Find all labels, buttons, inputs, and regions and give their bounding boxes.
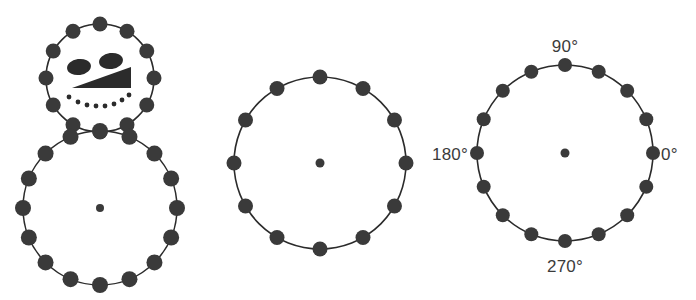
right-circle-node: [592, 65, 606, 79]
body-circle-node: [63, 129, 79, 145]
head-circle-node: [39, 71, 54, 86]
panel-snowman: [15, 17, 185, 294]
right-circle-node: [558, 234, 572, 248]
head-circle-node: [139, 98, 154, 113]
head-circle-node: [46, 44, 61, 59]
right-circle-center-dot: [561, 149, 570, 158]
panels-layer: [15, 17, 660, 294]
angle-label-270: 270°: [547, 257, 583, 276]
head-circle-node: [139, 44, 154, 59]
snowman-face: [66, 51, 131, 108]
panel-plain-circle: [227, 70, 414, 257]
middle-circle-node: [270, 230, 285, 245]
mouth-dot: [85, 103, 90, 108]
right-circle-node: [496, 84, 510, 98]
head-circle-node: [66, 24, 81, 39]
angle-label-0: 0°: [661, 145, 678, 164]
head-circle-outline: [46, 24, 154, 132]
body-circle-node: [15, 200, 31, 216]
mouth-dot: [120, 98, 125, 103]
right-circle-node: [470, 146, 484, 160]
head-circle-node: [93, 17, 108, 32]
right-circle-node: [496, 208, 510, 222]
mouth-dot: [127, 93, 132, 98]
right-circle-node: [620, 208, 634, 222]
mouth-dot: [76, 100, 81, 105]
right-circle-node: [639, 180, 653, 194]
left-eye: [66, 57, 92, 76]
shape-middle-circle: [227, 70, 414, 257]
body-circle-node: [21, 229, 37, 245]
mouth-dot: [103, 104, 108, 109]
right-circle-node: [477, 112, 491, 126]
mouth-dot: [94, 104, 99, 109]
body-circle-node: [63, 271, 79, 287]
right-circle-node: [524, 227, 538, 241]
right-circle-node: [592, 227, 606, 241]
right-circle-node: [524, 65, 538, 79]
middle-circle-node: [238, 113, 253, 128]
right-eye: [98, 51, 124, 70]
body-circle-node: [169, 200, 185, 216]
middle-circle-node: [399, 156, 414, 171]
body-circle-node: [92, 123, 108, 139]
head-circle-node: [120, 24, 135, 39]
body-circle-node: [163, 171, 179, 187]
body-circle-node: [121, 129, 137, 145]
mouth-dot: [112, 102, 117, 107]
figure-root: 90°0°180°270°: [0, 0, 696, 300]
body-circle-node: [146, 254, 162, 270]
middle-circle-node: [238, 199, 253, 214]
middle-circle-node: [313, 70, 328, 85]
head-circle-node: [147, 71, 162, 86]
circles-figure: 90°0°180°270°: [0, 0, 696, 300]
middle-circle-node: [313, 242, 328, 257]
right-circle-node: [646, 146, 660, 160]
shape-head-circle: [39, 17, 162, 140]
body-circle-node: [38, 254, 54, 270]
right-circle-node: [477, 180, 491, 194]
mouth-dot: [67, 95, 72, 100]
head-circle-node: [46, 98, 61, 113]
body-circle-node: [121, 271, 137, 287]
shape-right-circle: [470, 58, 660, 248]
middle-circle-node: [387, 199, 402, 214]
middle-circle-node: [227, 156, 242, 171]
body-circle-node: [92, 277, 108, 293]
right-circle-node: [558, 58, 572, 72]
right-circle-node: [639, 112, 653, 126]
shape-body-circle: [15, 123, 185, 293]
middle-circle-node: [356, 81, 371, 96]
body-circle-node: [146, 146, 162, 162]
body-circle-node: [21, 171, 37, 187]
angle-label-90: 90°: [552, 37, 578, 56]
angle-label-180: 180°: [432, 145, 468, 164]
right-circle-node: [620, 84, 634, 98]
middle-circle-node: [270, 81, 285, 96]
middle-circle-node: [387, 113, 402, 128]
middle-circle-center-dot: [316, 159, 325, 168]
body-circle-node: [163, 229, 179, 245]
body-circle-center-dot: [96, 204, 104, 212]
body-circle-node: [38, 146, 54, 162]
middle-circle-node: [356, 230, 371, 245]
panel-labeled-circle: [470, 58, 660, 248]
